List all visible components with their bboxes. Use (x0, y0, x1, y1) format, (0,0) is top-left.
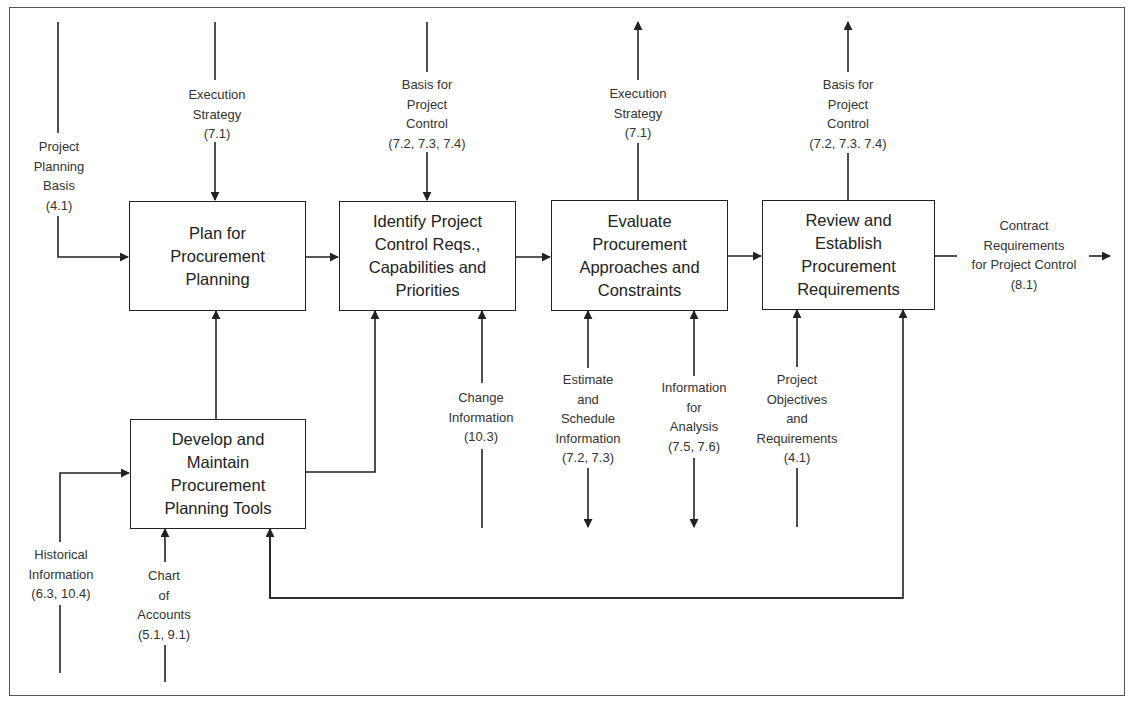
process-box-review[interactable]: Review and Establish Procurement Require… (762, 200, 935, 310)
label-historical-information: Historical Information (6.3, 10.4) (28, 545, 93, 604)
label-contract-requirements: Contract Requirements for Project Contro… (972, 216, 1077, 294)
label-estimate-schedule: Estimate and Schedule Information (7.2, … (555, 370, 620, 468)
label-chart-of-accounts: Chart of Accounts (5.1, 9.1) (137, 566, 190, 644)
label-information-analysis: Information for Analysis (7.5, 7.6) (661, 378, 726, 456)
label-project-planning-basis: Project Planning Basis (4.1) (34, 137, 85, 215)
process-box-label: Identify Project Control Reqs., Capabili… (369, 210, 486, 302)
process-box-label: Evaluate Procurement Approaches and Cons… (579, 210, 699, 302)
label-project-objectives: Project Objectives and Requirements (4.1… (757, 370, 838, 468)
label-basis-for-control-out: Basis for Project Control (7.2, 7.3. 7.4… (809, 75, 886, 153)
label-basis-for-control-in: Basis for Project Control (7.2, 7.3, 7.4… (388, 75, 465, 153)
process-box-plan[interactable]: Plan for Procurement Planning (129, 201, 306, 311)
process-box-label: Review and Establish Procurement Require… (797, 209, 900, 301)
label-change-information: Change Information (10.3) (448, 388, 513, 447)
label-execution-strategy-out: Execution Strategy (7.1) (609, 84, 666, 143)
label-execution-strategy-in: Execution Strategy (7.1) (188, 85, 245, 144)
process-box-identify[interactable]: Identify Project Control Reqs., Capabili… (339, 201, 516, 311)
process-box-evaluate[interactable]: Evaluate Procurement Approaches and Cons… (551, 200, 728, 311)
process-box-label: Plan for Procurement Planning (170, 222, 264, 291)
process-box-develop[interactable]: Develop and Maintain Procurement Plannin… (130, 419, 306, 529)
process-box-label: Develop and Maintain Procurement Plannin… (164, 428, 271, 520)
